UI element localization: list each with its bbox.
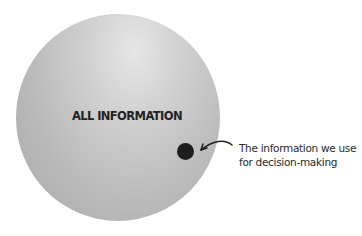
annotation-text: The information we use for decision-maki…	[239, 141, 356, 169]
annotation-line-1: The information we use	[239, 141, 356, 155]
curved-arrow-icon	[195, 138, 235, 160]
decision-information-dot	[177, 143, 194, 160]
all-information-label: ALL INFORMATION	[72, 109, 182, 123]
annotation-line-2: for decision-making	[239, 155, 356, 169]
